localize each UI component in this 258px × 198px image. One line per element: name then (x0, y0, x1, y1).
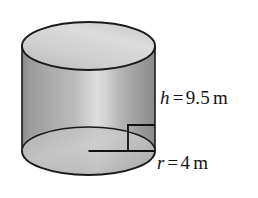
height-label: h=9.5m (160, 88, 228, 107)
radius-label: r=4m (157, 153, 208, 172)
radius-unit: m (190, 152, 208, 173)
cylinder-top-face (22, 22, 155, 70)
radius-value: 4 (181, 152, 191, 173)
height-equals-sign: = (171, 87, 186, 108)
height-value: 9.5 (186, 87, 210, 108)
top-disc (22, 22, 155, 70)
cylinder-figure: h=9.5m r=4m (0, 0, 258, 198)
radius-equals-sign: = (166, 152, 181, 173)
height-unit: m (210, 87, 228, 108)
radius-variable: r (157, 152, 166, 173)
height-variable: h (160, 87, 171, 108)
